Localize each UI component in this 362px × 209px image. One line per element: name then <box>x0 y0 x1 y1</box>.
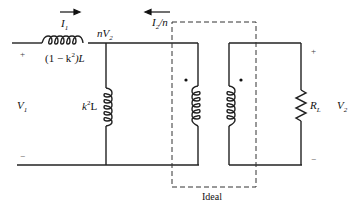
circuit-diagram <box>0 0 362 209</box>
label-i1: I1 <box>61 18 68 32</box>
label-v1: V1 <box>17 100 27 114</box>
minus-right: − <box>311 155 316 164</box>
plus-left: + <box>20 50 25 59</box>
label-v2: V2 <box>337 100 347 114</box>
ideal-transformer-boundary <box>172 22 256 187</box>
secondary-winding-icon <box>227 86 235 126</box>
label-series-inductor: (1 − k2)L <box>45 52 85 64</box>
load-resistor-icon <box>296 90 306 121</box>
plus-right: + <box>311 47 316 56</box>
label-i2-over-n: I2/n <box>152 17 168 31</box>
shunt-inductor-icon <box>104 88 112 126</box>
series-inductor-icon <box>42 36 83 44</box>
label-ideal: Ideal <box>202 192 222 202</box>
label-nv2: nV2 <box>97 28 113 42</box>
label-rl: RL <box>310 100 321 114</box>
minus-left: − <box>20 152 25 161</box>
label-shunt-inductor: k2L <box>82 100 97 112</box>
primary-winding-icon <box>192 86 200 126</box>
polarity-dot-secondary-icon <box>239 78 242 81</box>
polarity-dot-primary-icon <box>184 78 187 81</box>
